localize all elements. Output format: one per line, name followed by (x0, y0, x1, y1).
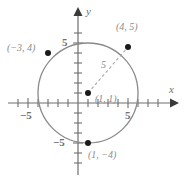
point-label-center: (1, 1) (95, 94, 117, 104)
point-label-neg3-4: (−3, 4) (7, 43, 35, 53)
coordinate-plane-figure: x y −5 5 5 −5 (−3, 4) (4, 5) (1, 1) (1, … (0, 0, 186, 185)
radius-label: 5 (101, 60, 106, 70)
x-axis-arrowhead (170, 99, 179, 108)
point-marker-4-5 (125, 44, 131, 50)
y-tick-label-pos5: 5 (62, 37, 68, 48)
radius-segment (88, 47, 128, 93)
point-marker-1-neg4 (85, 140, 91, 146)
point-marker-center (85, 90, 91, 96)
y-tick-label-neg5: −5 (53, 137, 65, 148)
point-label-4-5: (4, 5) (116, 22, 138, 32)
point-marker-neg3-4 (45, 50, 51, 56)
x-axis-label: x (169, 84, 174, 95)
x-tick-label-pos5: 5 (125, 110, 131, 121)
point-label-1-neg4: (1, −4) (88, 150, 116, 160)
y-axis-arrowhead (74, 7, 83, 16)
x-tick-label-neg5: −5 (20, 110, 32, 121)
y-axis-label: y (86, 6, 91, 17)
